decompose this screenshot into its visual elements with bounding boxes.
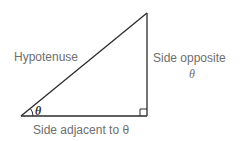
right-angle-marker (140, 109, 147, 116)
hypotenuse-label: Hypotenuse (14, 50, 78, 64)
angle-arc (30, 108, 33, 116)
opposite-theta-label: θ (189, 67, 195, 81)
hypotenuse-side (21, 13, 147, 116)
adjacent-label: Side adjacent to θ (33, 123, 129, 137)
right-triangle-diagram: θ Hypotenuse Side opposite θ Side adjace… (0, 0, 243, 141)
opposite-label: Side opposite (153, 51, 226, 65)
angle-theta-label: θ (35, 104, 42, 118)
